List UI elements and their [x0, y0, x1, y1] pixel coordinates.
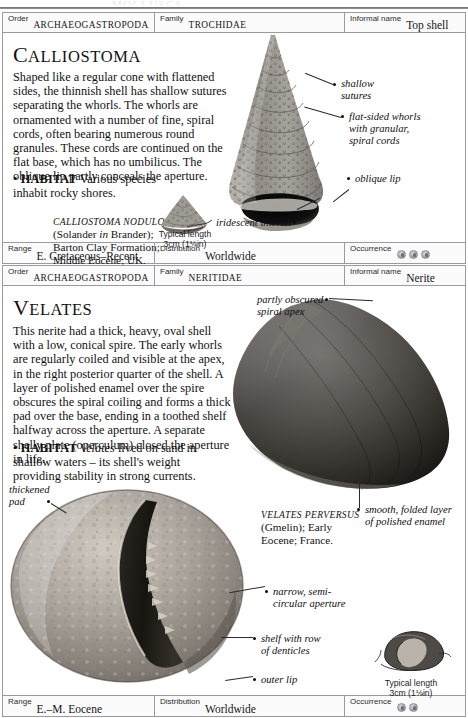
leader-line-shelf [221, 637, 253, 638]
field-occurrence: Occurrence [345, 243, 465, 263]
habitat-bullet: • [13, 440, 18, 455]
habitat-bullet: • [13, 171, 18, 186]
typical-length-line1: Typical length [149, 229, 221, 239]
field-distribution: Distribution Worldwide [155, 696, 345, 716]
authority-post: Brander); [108, 228, 154, 240]
typical-length-velates: Typical length 3cm (1⅛in) [373, 678, 449, 698]
annotation-shelf-with-denticles: shelf with row of denticles [261, 633, 321, 657]
entry-calliostoma: Order Archaeogastropoda Family Trochidae… [2, 12, 466, 264]
occurrence-badge-icon [409, 703, 418, 712]
description-text: Shaped like a regular cone with flattene… [13, 70, 231, 184]
informal-name-value: Top shell [406, 19, 448, 31]
range-value: E.–M. Eocene [37, 703, 102, 715]
annotation-bullet-outer-lip [253, 678, 256, 681]
family-label: Family [160, 15, 184, 23]
book-page: MOLLUSCS Order Archaeogastropoda Family … [0, 0, 468, 718]
occurrence-badge-icon [409, 250, 418, 259]
specimen-scientific-name: Velates perversus [261, 508, 371, 521]
typical-length-line1: Typical length [373, 678, 449, 688]
annotation-iridescent-interior: iridescent interior [216, 217, 293, 229]
annotation-outer-lip: outer lip [261, 674, 297, 686]
range-label: Range [8, 698, 32, 706]
order-label: Order [8, 15, 28, 23]
genus-heading: VELATES [13, 297, 92, 321]
annotation-thickened-pad: thickened pad [9, 484, 50, 508]
genus-rest: ALLIOSTOMA [28, 47, 141, 66]
distribution-label: Distribution [160, 698, 200, 706]
genus-initial: V [13, 295, 29, 320]
shell-photo-calliostoma-main [219, 29, 359, 237]
shell-sketch-velates-side [367, 624, 453, 676]
field-occurrence: Occurrence [345, 696, 465, 716]
occurrence-badges [397, 703, 418, 712]
habitat-paragraph: • HABITAT Velates lived on sand in shall… [13, 441, 213, 484]
specimen-caption: Velates perversus (Gmelin); Early Eocene… [261, 508, 371, 547]
habitat-label: HABITAT [21, 172, 77, 186]
specimen-authority: (Gmelin); Early [261, 521, 371, 534]
field-informal-name: Informal name Top shell [345, 13, 465, 32]
order-value: Archaeogastropoda [33, 272, 148, 284]
entry-body: CALLIOSTOMA Shaped like a regular cone w… [3, 33, 465, 242]
shell-photo-velates-base [7, 486, 255, 691]
annotation-bullet-aperture [265, 590, 268, 593]
distribution-value: Worldwide [205, 703, 256, 715]
genus-heading: CALLIOSTOMA [13, 44, 141, 68]
genus-rest: ELATES [29, 300, 92, 319]
habitat-paragraph: • HABITAT Various species inhabit rocky … [13, 172, 163, 200]
annotation-oblique-lip: oblique lip [355, 173, 401, 185]
informal-name-value: Nerite [406, 272, 435, 284]
habitat-genus-italic: Velates [80, 441, 115, 455]
family-label: Family [160, 268, 184, 276]
annotation-narrow-semicircular-aperture: narrow, semi- circular aperture [273, 586, 345, 610]
occurrence-badge-icon [397, 703, 406, 712]
field-order: Order Archaeogastropoda [3, 266, 155, 285]
family-value: Neritidae [189, 272, 243, 284]
field-informal-name: Informal name Nerite [345, 266, 465, 285]
occurrence-label: Occurrence [350, 698, 391, 706]
occurrence-badges [397, 250, 430, 259]
order-label: Order [8, 268, 28, 276]
genus-initial: C [13, 42, 28, 67]
field-range: Range E.–M. Eocene [3, 696, 155, 716]
specimen-age-locality: Eocene; France. [261, 534, 371, 547]
entry-header-row: Order Archaeogastropoda Family Neritidae… [3, 266, 465, 286]
informal-name-label: Informal name [350, 268, 401, 276]
annotation-flat-sided-whorls: flat-sided whorls with granular, spiral … [349, 111, 421, 146]
entry-body: VELATES This nerite had a thick, heavy, … [3, 286, 465, 695]
annotation-shallow-sutures: shallow sutures [341, 78, 374, 102]
distribution-label: Distribution [160, 245, 200, 253]
range-label: Range [8, 245, 32, 253]
annotation-partly-obscured-spiral-apex: partly obscured spiral apex [257, 294, 323, 318]
order-value: Archaeogastropoda [33, 19, 148, 31]
authority-pre: (Solander [53, 228, 99, 240]
field-family: Family Neritidae [155, 266, 345, 285]
top-rule [0, 7, 468, 9]
informal-name-label: Informal name [350, 15, 401, 23]
habitat-label: HABITAT [21, 441, 77, 455]
distribution-value: Worldwide [205, 250, 256, 262]
field-order: Order Archaeogastropoda [3, 13, 155, 32]
annotation-bullet-shelf [253, 637, 256, 640]
annotation-smooth-folded-layer: smooth, folded layer of polished enamel [365, 504, 452, 528]
range-value: E. Cretaceous–Recent [37, 250, 139, 262]
entry-footer-row: Range E. Cretaceous–Recent Distribution … [3, 242, 465, 263]
occurrence-label: Occurrence [350, 245, 391, 253]
authority-in: in [99, 228, 108, 240]
running-head: MOLLUSCS [112, 0, 183, 5]
shell-photo-velates-side [219, 294, 468, 504]
occurrence-badge-icon [421, 250, 430, 259]
field-range: Range E. Cretaceous–Recent [3, 243, 155, 263]
entry-velates: Order Archaeogastropoda Family Neritidae… [2, 265, 466, 717]
field-distribution: Distribution Worldwide [155, 243, 345, 263]
entry-footer-row: Range E.–M. Eocene Distribution Worldwid… [3, 695, 465, 716]
leader-line-smooth-folded-layer [359, 472, 360, 508]
occurrence-badge-icon [397, 250, 406, 259]
